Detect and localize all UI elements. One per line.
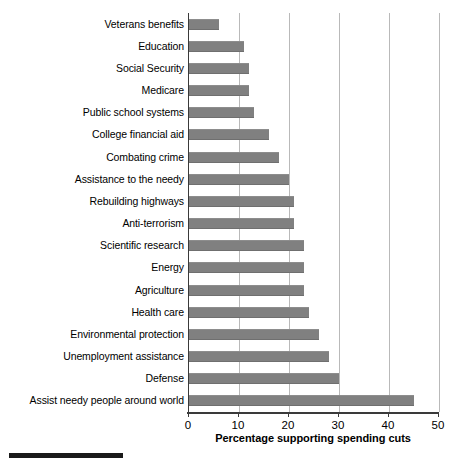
category-label: Unemployment assistance	[0, 351, 184, 362]
bar	[189, 196, 294, 207]
category-label: Veterans benefits	[0, 19, 184, 30]
x-tick	[238, 412, 239, 417]
bar	[189, 152, 279, 163]
category-label: Assistance to the needy	[0, 174, 184, 185]
bar	[189, 107, 254, 118]
bar	[189, 351, 329, 362]
category-label: College financial aid	[0, 129, 184, 140]
gridline-50	[439, 13, 440, 412]
plot-area	[188, 13, 439, 412]
category-axis-labels: Veterans benefitsEducationSocial Securit…	[0, 13, 184, 412]
bar	[189, 218, 294, 229]
x-tick-label: 20	[268, 419, 308, 432]
category-label: Assist needy people around world	[0, 395, 184, 406]
category-label: Combating crime	[0, 152, 184, 163]
x-tick-label: 30	[318, 419, 358, 432]
category-label: Energy	[0, 262, 184, 273]
x-tick	[338, 412, 339, 417]
horizontal-bar-chart: Veterans benefitsEducationSocial Securit…	[0, 0, 460, 469]
category-label: Medicare	[0, 85, 184, 96]
bar	[189, 85, 249, 96]
category-label: Defense	[0, 373, 184, 384]
category-label: Health care	[0, 307, 184, 318]
x-tick	[188, 412, 189, 417]
bar	[189, 285, 304, 296]
category-label: Social Security	[0, 63, 184, 74]
category-label: Environmental protection	[0, 329, 184, 340]
bar	[189, 63, 249, 74]
bar	[189, 41, 244, 52]
x-tick	[388, 412, 389, 417]
bar	[189, 19, 219, 30]
x-tick-label: 0	[168, 419, 208, 432]
x-tick-label: 50	[418, 419, 458, 432]
gridline-30	[339, 13, 340, 412]
category-label: Agriculture	[0, 285, 184, 296]
x-axis-line	[187, 412, 439, 414]
x-tick	[288, 412, 289, 417]
bar	[189, 262, 304, 273]
gridline-40	[389, 13, 390, 412]
bar	[189, 329, 319, 340]
category-label: Rebuilding highways	[0, 196, 184, 207]
bar	[189, 174, 289, 185]
x-tick-label: 10	[218, 419, 258, 432]
bar	[189, 395, 414, 406]
category-label: Anti-terrorism	[0, 218, 184, 229]
footer-rule	[9, 453, 123, 458]
bar	[189, 307, 309, 318]
x-axis-title: Percentage supporting spending cuts	[188, 432, 438, 444]
category-label: Public school systems	[0, 107, 184, 118]
x-tick	[438, 412, 439, 417]
x-tick-label: 40	[368, 419, 408, 432]
category-label: Education	[0, 41, 184, 52]
category-label: Scientific research	[0, 240, 184, 251]
bar	[189, 129, 269, 140]
bar	[189, 373, 339, 384]
bar	[189, 240, 304, 251]
